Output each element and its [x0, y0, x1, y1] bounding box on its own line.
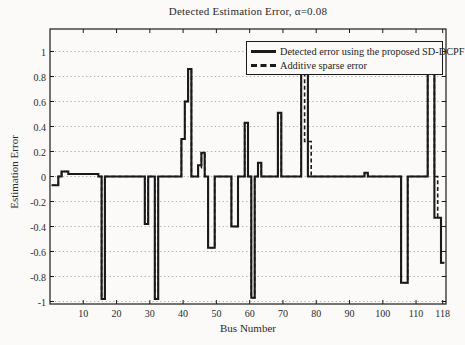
detected-error-line	[52, 68, 445, 299]
x-tick-label: 100	[375, 308, 390, 319]
y-tick-label: 0.6	[34, 96, 47, 107]
dashed-line-sample	[251, 64, 276, 67]
x-tick-label: 90	[344, 308, 354, 319]
additive-sparse-error-line	[52, 68, 445, 299]
y-tick-label: 1	[41, 46, 46, 57]
legend-entry-sparse: Additive sparse error	[251, 58, 439, 72]
y-tick-label: 0.4	[34, 121, 47, 132]
y-tick-label: -0.4	[30, 221, 46, 232]
x-tick-label: 118	[435, 308, 450, 319]
x-tick-label: 110	[409, 308, 424, 319]
y-tick-label: 0.2	[34, 146, 47, 157]
x-tick-label: 40	[178, 308, 188, 319]
legend-box: Detected error using the proposed SD-DCP…	[246, 41, 443, 75]
x-axis-label: Bus Number	[50, 322, 446, 334]
y-axis-label: Estimation Error	[8, 117, 20, 227]
x-tick-label: 30	[145, 308, 155, 319]
y-tick-label: 0.8	[34, 71, 47, 82]
figure-canvas: Detected Estimation Error, α=0.08 Bus Nu…	[0, 0, 465, 345]
x-tick-label: 50	[211, 308, 221, 319]
x-tick-label: 20	[112, 308, 122, 319]
legend-entry-detected-label: Detected error using the proposed SD-DCP…	[280, 46, 464, 57]
chart-title: Detected Estimation Error, α=0.08	[50, 5, 446, 17]
y-tick-label: -0.6	[30, 246, 46, 257]
legend-entry-sparse-label: Additive sparse error	[280, 60, 367, 71]
y-tick-label: -0.2	[30, 196, 46, 207]
x-tick-label: 70	[278, 308, 288, 319]
x-tick-label: 10	[78, 308, 88, 319]
x-tick-label: 60	[245, 308, 255, 319]
y-tick-label: -1	[38, 296, 46, 307]
x-tick-label: 80	[311, 308, 321, 319]
y-tick-label: -0.8	[30, 271, 46, 282]
y-tick-label: 0	[41, 171, 46, 182]
legend-entry-detected: Detected error using the proposed SD-DCP…	[251, 44, 439, 58]
solid-line-sample	[251, 50, 276, 53]
